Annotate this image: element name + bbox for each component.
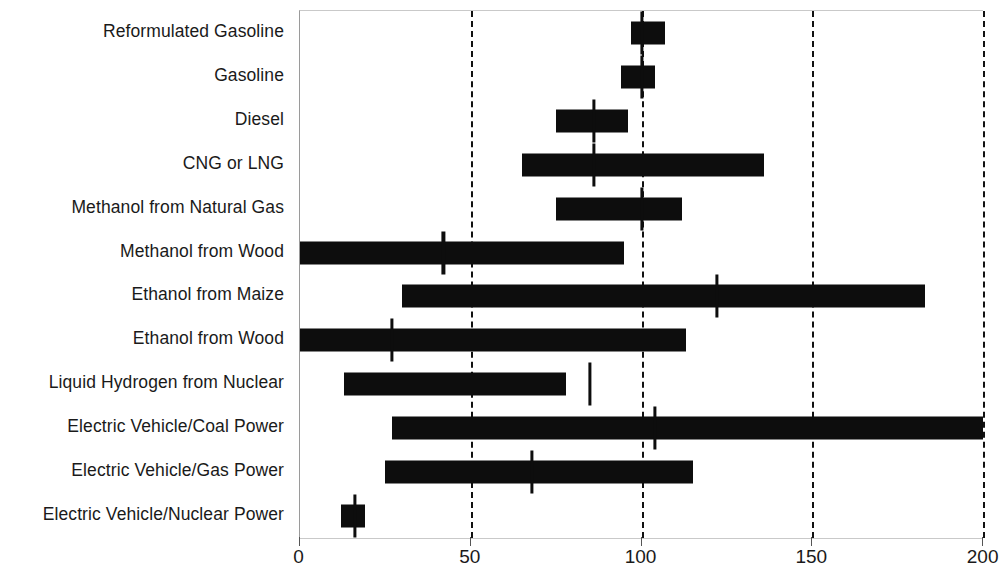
- x-tick: [982, 537, 983, 546]
- category-axis-labels: Reformulated GasolineGasolineDieselCNG o…: [0, 0, 292, 537]
- central-value-marker: [592, 143, 595, 186]
- range-bar: [300, 241, 624, 264]
- x-tick-label: 100: [625, 546, 657, 568]
- category-label: Methanol from Wood: [120, 243, 284, 261]
- central-value-marker: [592, 99, 595, 142]
- range-bar: [631, 21, 665, 44]
- central-value-marker: [654, 407, 657, 450]
- x-tick-label: 50: [459, 546, 480, 568]
- range-bar: [392, 417, 983, 440]
- x-axis: 050100150200: [299, 537, 982, 568]
- central-value-marker: [640, 187, 643, 230]
- category-label: Reformulated Gasoline: [103, 23, 284, 41]
- range-bar: [344, 373, 566, 396]
- category-label: Methanol from Natural Gas: [71, 199, 284, 217]
- central-value-marker: [391, 319, 394, 362]
- range-bar: [556, 197, 682, 220]
- central-value-marker: [715, 275, 718, 318]
- central-value-marker: [640, 11, 643, 54]
- range-bar: [300, 329, 686, 352]
- x-tick: [811, 537, 812, 546]
- central-value-marker: [353, 495, 356, 538]
- range-bar: [522, 153, 764, 176]
- category-label: Gasoline: [214, 67, 284, 85]
- range-bar: [621, 65, 655, 88]
- plot-area: [299, 10, 983, 539]
- category-label: Ethanol from Wood: [133, 331, 284, 349]
- category-label: Electric Vehicle/Nuclear Power: [43, 506, 284, 524]
- category-label: Liquid Hydrogen from Nuclear: [49, 375, 284, 393]
- x-tick: [641, 537, 642, 546]
- x-tick-label: 200: [967, 546, 999, 568]
- x-tick-label: 150: [795, 546, 827, 568]
- category-label: Ethanol from Maize: [131, 287, 284, 305]
- central-value-marker: [640, 55, 643, 98]
- category-label: CNG or LNG: [183, 155, 284, 173]
- range-bar: [402, 285, 924, 308]
- x-tick-label: 0: [293, 546, 304, 568]
- central-value-marker: [442, 231, 445, 274]
- category-label: Electric Vehicle/Coal Power: [67, 418, 284, 436]
- category-label: Diesel: [235, 111, 284, 129]
- x-tick: [299, 537, 300, 546]
- range-bar-chart: Reformulated GasolineGasolineDieselCNG o…: [0, 0, 1007, 568]
- range-bar: [385, 461, 692, 484]
- gridline-200: [983, 11, 985, 538]
- gridline-50: [471, 11, 473, 538]
- central-value-marker: [589, 363, 592, 406]
- central-value-marker: [531, 451, 534, 494]
- category-label: Electric Vehicle/Gas Power: [71, 462, 284, 480]
- gridline-150: [812, 11, 814, 538]
- x-tick: [470, 537, 471, 546]
